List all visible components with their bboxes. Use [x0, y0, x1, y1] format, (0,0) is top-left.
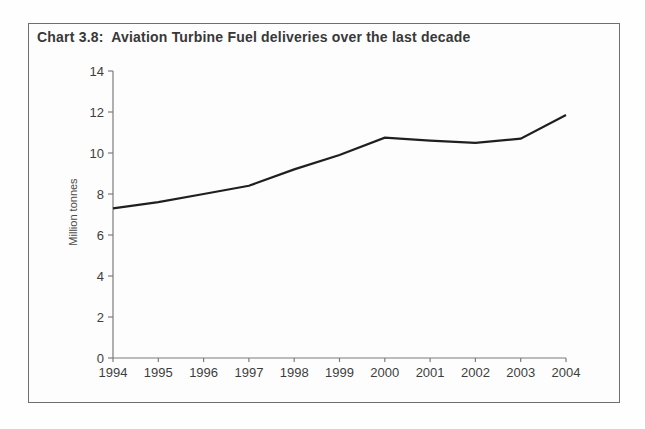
y-tick-label-6: 6: [97, 228, 104, 243]
x-tick-label-2001: 2001: [416, 365, 445, 380]
x-tick-label-1995: 1995: [144, 365, 173, 380]
document-page: Chart 3.8: Aviation Turbine Fuel deliver…: [0, 0, 645, 429]
x-tick-label-2004: 2004: [552, 365, 581, 380]
y-tick-label-10: 10: [90, 146, 104, 161]
y-tick-label-8: 8: [97, 187, 104, 202]
x-tick-label-1998: 1998: [280, 365, 309, 380]
x-tick-label-1997: 1997: [234, 365, 263, 380]
x-tick-label-2000: 2000: [370, 365, 399, 380]
y-tick-label-14: 14: [90, 64, 104, 79]
x-tick-label-2003: 2003: [506, 365, 535, 380]
y-tick-label-0: 0: [97, 351, 104, 366]
fuel-deliveries-line: [113, 115, 566, 208]
y-tick-label-12: 12: [90, 105, 104, 120]
y-tick-label-4: 4: [97, 269, 104, 284]
x-tick-label-1999: 1999: [325, 365, 354, 380]
y-tick-label-2: 2: [97, 310, 104, 325]
axis-lines: [113, 71, 566, 358]
x-tick-label-1994: 1994: [99, 365, 128, 380]
x-tick-label-2002: 2002: [461, 365, 490, 380]
x-tick-label-1996: 1996: [189, 365, 218, 380]
line-plot: 0246810121419941995199619971998199920002…: [0, 0, 645, 429]
